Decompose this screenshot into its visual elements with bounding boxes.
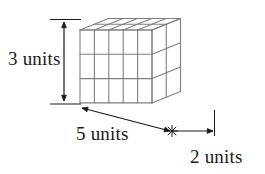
dimension-label-depth: 2 units (190, 146, 243, 167)
dimension-label-height: 3 units (8, 48, 61, 69)
dimension-label-width: 5 units (76, 123, 129, 144)
prism-diagram: 3 units5 units2 units (0, 0, 265, 174)
figure-container: 3 units5 units2 units (0, 0, 265, 174)
